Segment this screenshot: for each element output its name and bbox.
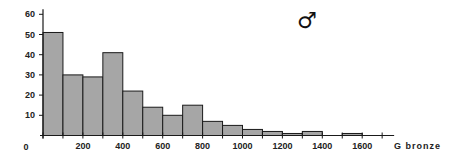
histogram-bar (123, 91, 143, 135)
x-tick-label: 1600 (352, 141, 372, 151)
x-tick-label: 1000 (232, 141, 252, 151)
y-tick-label: 40 (25, 50, 35, 60)
y-tick-label: 20 (25, 90, 35, 100)
x-tick-label: 1200 (272, 141, 292, 151)
histogram-bar (302, 131, 322, 135)
x-tick-label: 0 (23, 142, 28, 152)
histogram-bar (262, 131, 282, 135)
histogram-bar (63, 75, 83, 136)
histogram-chart: 1020304050600200400600800100012001400160… (0, 0, 456, 162)
histogram-bar (223, 125, 243, 135)
histogram-bar (143, 107, 163, 135)
histogram-bar (43, 32, 63, 135)
y-tick-label: 50 (25, 30, 35, 40)
x-tick-label: 200 (75, 141, 90, 151)
y-tick-label: 10 (25, 110, 35, 120)
x-tick-label: 800 (195, 141, 210, 151)
x-axis-label: G bronze (394, 141, 441, 151)
histogram-bar (183, 105, 203, 135)
x-tick-label: 600 (155, 141, 170, 151)
histogram-bar (83, 77, 103, 136)
male-symbol-icon: ♂ (297, 8, 317, 33)
x-tick-label: 1400 (312, 141, 332, 151)
y-tick-label: 30 (25, 70, 35, 80)
histogram-bar (103, 53, 123, 136)
x-tick-label: 400 (115, 141, 130, 151)
y-tick-label: 60 (25, 9, 35, 19)
histogram-bar (203, 121, 223, 135)
histogram-bar (163, 115, 183, 135)
histogram-bars (43, 32, 362, 135)
histogram-bar (243, 129, 263, 135)
